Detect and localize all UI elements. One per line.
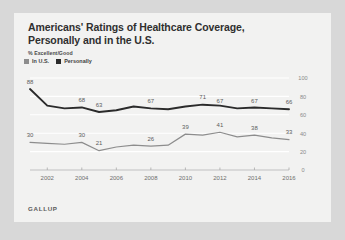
y-axis-tick-label: 60 bbox=[300, 112, 306, 118]
x-axis-tick-label: 2006 bbox=[110, 175, 124, 181]
plot-area: 0204060801002002200420062008201020122014… bbox=[24, 70, 321, 212]
data-point-label: 30 bbox=[78, 132, 85, 138]
data-point-label: 88 bbox=[27, 79, 34, 85]
data-point-label: 21 bbox=[96, 140, 103, 146]
x-axis-tick-label: 2016 bbox=[282, 175, 296, 181]
x-axis-tick-label: 2010 bbox=[179, 175, 193, 181]
y-axis-tick-label: 20 bbox=[300, 149, 306, 155]
chart-subtitle: % Excellent/Good bbox=[28, 50, 73, 56]
x-axis-tick-label: 2002 bbox=[41, 175, 55, 181]
data-point-label: 26 bbox=[148, 136, 155, 142]
y-axis-tick-label: 80 bbox=[300, 94, 306, 100]
data-point-label: 63 bbox=[96, 102, 103, 108]
data-point-label: 67 bbox=[251, 98, 258, 104]
data-point-label: 38 bbox=[251, 125, 258, 131]
chart-card: Americans' Ratings of Healthcare Coverag… bbox=[14, 13, 331, 222]
data-point-label: 33 bbox=[286, 129, 293, 135]
legend-swatch-icon-in-us bbox=[24, 59, 29, 64]
y-axis-tick-label: 40 bbox=[300, 131, 306, 137]
series-line-in-u-s bbox=[30, 132, 289, 150]
data-point-label: 30 bbox=[27, 132, 34, 138]
x-axis-tick-label: 2004 bbox=[75, 175, 89, 181]
data-point-label: 68 bbox=[78, 97, 85, 103]
legend-item-personally[interactable]: Personally bbox=[56, 58, 92, 64]
legend-swatch-icon-personally bbox=[56, 59, 61, 64]
x-axis-tick-label: 2008 bbox=[144, 175, 158, 181]
x-axis-tick-label: 2014 bbox=[248, 175, 262, 181]
data-point-label: 67 bbox=[148, 98, 155, 104]
legend-item-in-us[interactable]: In U.S. bbox=[24, 58, 49, 64]
y-axis-tick-label: 100 bbox=[298, 75, 307, 81]
chart-legend: In U.S. Personally bbox=[24, 58, 92, 64]
chart-title: Americans' Ratings of Healthcare Coverag… bbox=[28, 21, 290, 47]
legend-label-in-us: In U.S. bbox=[32, 58, 49, 64]
line-chart-svg: 0204060801002002200420062008201020122014… bbox=[24, 70, 321, 212]
y-axis-tick-label: 0 bbox=[301, 167, 304, 173]
data-point-label: 39 bbox=[182, 124, 189, 130]
x-axis-tick-label: 2012 bbox=[213, 175, 227, 181]
source-watermark: GALLUP bbox=[28, 205, 58, 212]
legend-label-personally: Personally bbox=[64, 58, 92, 64]
data-point-label: 41 bbox=[217, 122, 224, 128]
data-point-label: 71 bbox=[199, 94, 206, 100]
data-point-label: 67 bbox=[217, 98, 224, 104]
data-point-label: 66 bbox=[286, 99, 293, 105]
